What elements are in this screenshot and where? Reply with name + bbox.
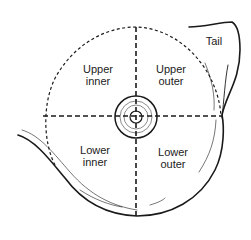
lower-outer-line2: outer bbox=[153, 158, 193, 170]
label-lower-inner: Lower inner bbox=[75, 144, 115, 168]
upper-outer-line1: Upper bbox=[151, 63, 191, 75]
label-tail: Tail bbox=[202, 35, 226, 47]
upper-outer-line2: outer bbox=[151, 75, 191, 87]
lower-inner-line2: inner bbox=[75, 156, 115, 168]
lower-inner-line1: Lower bbox=[75, 144, 115, 156]
label-lower-outer: Lower outer bbox=[153, 146, 193, 170]
lower-outer-line1: Lower bbox=[153, 146, 193, 158]
tail-label-text: Tail bbox=[202, 35, 226, 47]
label-upper-outer: Upper outer bbox=[151, 63, 191, 87]
breast-outline bbox=[18, 22, 240, 216]
label-upper-inner: Upper inner bbox=[78, 63, 118, 87]
upper-inner-line1: Upper bbox=[78, 63, 118, 75]
upper-inner-line2: inner bbox=[78, 75, 118, 87]
